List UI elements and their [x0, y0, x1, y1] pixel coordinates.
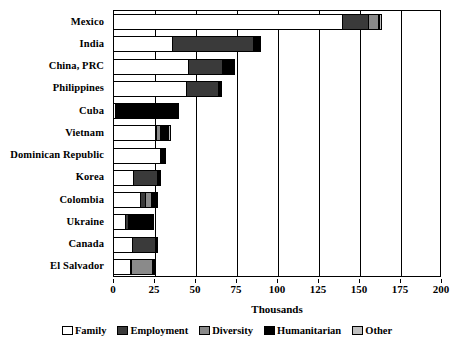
bar-segment-family [113, 81, 187, 97]
x-tick-label: 200 [433, 283, 450, 295]
bar-segment-other [156, 237, 158, 253]
legend-label: Diversity [212, 325, 253, 336]
legend-label: Other [365, 325, 392, 336]
bar-segment-other [152, 214, 154, 230]
bar-segment-other [220, 81, 222, 97]
category-label: Philippines [53, 82, 104, 93]
bar-segment-other [259, 36, 261, 52]
legend-item[interactable]: Employment [117, 325, 188, 336]
category-label: Mexico [71, 16, 104, 27]
bar-row [114, 103, 442, 119]
legend-item[interactable]: Other [352, 325, 392, 336]
bar-segment-family [113, 237, 133, 253]
category-label: China, PRC [49, 60, 104, 71]
bar-row [114, 14, 442, 30]
bar-segment-other [159, 170, 161, 186]
x-tick-label: 75 [231, 283, 242, 295]
bar-row [114, 237, 442, 253]
legend-swatch-icon [117, 326, 128, 335]
bar-segment-other [153, 259, 155, 275]
legend-swatch-icon [199, 326, 210, 335]
legend-label: Employment [130, 325, 188, 336]
legend-label: Humanitarian [277, 325, 341, 336]
bar-row [114, 214, 442, 230]
x-tick-label: 150 [351, 283, 368, 295]
bar-segment-family [113, 192, 141, 208]
legend-swatch-icon [352, 326, 363, 335]
bar-segment-family [113, 125, 156, 141]
bar-segment-other [164, 148, 166, 164]
bar-segment-family [113, 259, 131, 275]
x-tick-label: 0 [110, 283, 116, 295]
bar-segment-family [113, 214, 126, 230]
bar-row [114, 170, 442, 186]
x-tick-label: 50 [190, 283, 201, 295]
bar-segment-employment [342, 14, 369, 30]
bar-segment-employment [132, 237, 156, 253]
x-tick-label: 125 [310, 283, 327, 295]
x-tick-label: 175 [392, 283, 409, 295]
bar-row [114, 125, 442, 141]
bar-segment-other [177, 103, 179, 119]
bar-segment-humanitarian [129, 214, 152, 230]
bar-segment-family [113, 170, 134, 186]
bar-segment-other [379, 14, 382, 30]
bar-segment-other [233, 59, 235, 75]
x-tick-label: 25 [149, 283, 160, 295]
bar-row [114, 36, 442, 52]
plot-area [113, 10, 441, 277]
bar-row [114, 148, 442, 164]
bar-segment-family [113, 148, 161, 164]
bar-segment-family [113, 59, 189, 75]
x-tick-label: 100 [269, 283, 286, 295]
bar-segment-employment [188, 59, 223, 75]
bar-segment-humanitarian [116, 103, 178, 119]
chart-legend: FamilyEmploymentDiversityHumanitarianOth… [0, 325, 454, 336]
bar-segment-other [168, 125, 171, 141]
category-label: El Salvador [50, 260, 104, 271]
bar-segment-employment [172, 36, 254, 52]
bar-segment-diversity [131, 259, 153, 275]
bar-row [114, 59, 442, 75]
legend-item[interactable]: Humanitarian [264, 325, 341, 336]
category-label: Dominican Republic [10, 149, 104, 160]
category-label: Canada [68, 238, 104, 249]
bars-layer [114, 11, 440, 276]
category-label: Vietnam [65, 127, 104, 138]
bar-segment-employment [133, 170, 159, 186]
stacked-bar-chart: MexicoIndiaChina, PRCPhilippinesCubaViet… [0, 0, 454, 350]
legend-item[interactable]: Family [62, 325, 107, 336]
legend-item[interactable]: Diversity [199, 325, 253, 336]
bar-row [114, 192, 442, 208]
bar-segment-employment [186, 81, 219, 97]
x-axis-title: Thousands [113, 303, 441, 315]
bar-segment-family [113, 14, 343, 30]
category-label: Ukraine [67, 216, 104, 227]
bar-row [114, 81, 442, 97]
legend-swatch-icon [62, 326, 73, 335]
bar-segment-other [156, 192, 158, 208]
bar-segment-family [113, 36, 173, 52]
legend-label: Family [75, 325, 107, 336]
bar-row [114, 259, 442, 275]
legend-swatch-icon [264, 326, 275, 335]
category-label: India [80, 38, 104, 49]
category-label: Colombia [59, 194, 104, 205]
x-axis-ticks: 0255075100125150175200 [113, 279, 441, 295]
category-label: Korea [76, 171, 104, 182]
category-axis-labels: MexicoIndiaChina, PRCPhilippinesCubaViet… [0, 10, 108, 277]
category-label: Cuba [79, 105, 104, 116]
